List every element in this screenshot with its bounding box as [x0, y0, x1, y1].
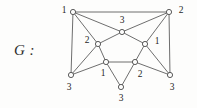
- graph-vertex-inner-bottom-left: [103, 59, 108, 64]
- vertex-label-top-left: 1: [62, 5, 67, 15]
- graph-edge: [106, 62, 121, 87]
- graph-edge: [122, 32, 145, 44]
- graph-vertex-inner-bottom-right: [132, 59, 137, 64]
- graph-edge: [71, 12, 73, 75]
- graph-vertex-outer-bottom-right: [167, 72, 172, 77]
- vertex-label-top-right: 2: [179, 5, 184, 15]
- vertex-label-top-center: 3: [120, 15, 125, 25]
- graph-vertex-mid-left: [95, 41, 100, 46]
- vertex-label-inner-bottom-left: 1: [101, 68, 106, 78]
- graph-vertex-mid-right: [142, 41, 147, 46]
- vertex-label-mid-left: 2: [85, 35, 90, 45]
- graph-edge: [135, 44, 145, 62]
- figure-container: G : 1232112333: [0, 0, 197, 108]
- vertex-label-outer-bottom-right: 3: [170, 82, 175, 92]
- graph-vertex-bottom-center: [118, 84, 123, 89]
- vertex-label-mid-right: 1: [155, 36, 160, 46]
- graph-edge: [121, 62, 135, 87]
- vertex-label-outer-bottom-left: 3: [67, 82, 72, 92]
- graph-edge: [98, 32, 122, 44]
- graph-diagram: 1232112333: [0, 0, 197, 108]
- graph-vertex-top-right: [166, 9, 171, 14]
- graph-vertex-outer-bottom-left: [68, 72, 73, 77]
- graph-vertex-top-left: [70, 9, 75, 14]
- vertex-label-inner-bottom-right: 2: [138, 69, 143, 79]
- graph-edge: [169, 12, 170, 75]
- vertex-label-bottom-center: 3: [119, 93, 124, 103]
- graph-vertex-top-center: [119, 29, 124, 34]
